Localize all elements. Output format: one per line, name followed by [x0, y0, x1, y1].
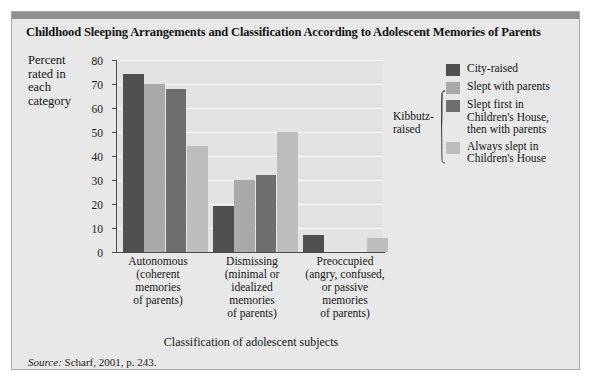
legend-item[interactable]: City-raised — [446, 62, 576, 76]
y-tick: 80 — [106, 60, 117, 61]
legend-swatch-icon — [446, 142, 460, 154]
x-category-label-line: of parents) — [284, 307, 406, 320]
x-category-label: Preoccupied(angry, confused,or passiveme… — [284, 255, 406, 320]
y-tick-mark — [112, 132, 117, 133]
y-tick-label: 50 — [92, 127, 104, 139]
x-category-label-line: (angry, confused, — [284, 268, 406, 281]
y-tick: 20 — [106, 204, 117, 205]
legend-label-line: then with parents — [467, 123, 576, 136]
x-axis-label: Classification of adolescent subjects — [106, 335, 396, 350]
y-tick-mark — [112, 228, 117, 229]
y-axis-label-line: category — [28, 95, 100, 109]
x-category-label-line: or passive — [284, 281, 406, 294]
legend-item[interactable]: Slept first inChildren's House,then with… — [446, 98, 576, 136]
gridline — [117, 60, 383, 61]
bar — [303, 235, 324, 252]
legend-label-line: City-raised — [467, 62, 576, 75]
y-tick-mark — [112, 156, 117, 157]
y-tick-mark — [112, 108, 117, 109]
y-tick-label: 70 — [92, 79, 104, 91]
y-tick-label: 60 — [92, 103, 104, 115]
y-tick-mark — [112, 252, 117, 253]
y-tick-mark — [112, 84, 117, 85]
y-tick: 0 — [106, 252, 117, 253]
x-axis-line — [116, 252, 385, 253]
plot-region: 01020304050607080 — [106, 60, 383, 252]
y-tick-label: 30 — [92, 175, 104, 187]
legend: City-raisedSlept with parentsSlept first… — [446, 62, 576, 169]
top-rule-divider — [12, 12, 579, 19]
y-tick-mark — [112, 204, 117, 205]
legend-swatch-icon — [446, 82, 460, 94]
bar — [187, 146, 208, 252]
figure-panel: Childhood Sleeping Arrangements and Clas… — [11, 11, 580, 370]
y-axis-label-line: Percent — [28, 54, 100, 68]
y-tick-label: 10 — [92, 223, 104, 235]
figure-title: Childhood Sleeping Arrangements and Clas… — [26, 25, 541, 40]
legend-label: Slept with parents — [467, 80, 576, 93]
plot-area — [117, 60, 383, 252]
legend-label-line: Children's House — [467, 152, 576, 165]
kibbutz-bracket-label-line: Kibbutz- — [393, 110, 441, 123]
legend-item[interactable]: Always slept inChildren's House — [446, 140, 576, 165]
bar — [166, 89, 187, 252]
bar — [256, 175, 277, 252]
source-text: Scharf, 2001, p. 243. — [65, 356, 157, 368]
y-tick: 10 — [106, 228, 117, 229]
legend-item[interactable]: Slept with parents — [446, 80, 576, 94]
bar — [367, 238, 388, 252]
bar — [277, 132, 298, 252]
bar — [144, 84, 165, 252]
y-tick: 70 — [106, 84, 117, 85]
x-category-label-line: Preoccupied — [284, 255, 406, 268]
curly-brace-icon — [437, 90, 446, 164]
y-tick: 30 — [106, 180, 117, 181]
y-tick: 40 — [106, 156, 117, 157]
bar — [213, 206, 234, 252]
legend-label-line: Slept first in — [467, 98, 576, 111]
legend-label-line: Always slept in — [467, 140, 576, 153]
legend-label-line: Children's House, — [467, 111, 576, 124]
legend-label-line: Slept with parents — [467, 80, 576, 93]
kibbutz-bracket-label: Kibbutz-raised — [393, 110, 441, 136]
y-tick: 60 — [106, 108, 117, 109]
bar — [234, 180, 255, 252]
y-tick-label: 40 — [92, 151, 104, 163]
legend-swatch-icon — [446, 64, 460, 76]
source-note: Source: Scharf, 2001, p. 243. — [28, 356, 157, 368]
y-tick-label: 20 — [92, 199, 104, 211]
y-axis-label-line: each — [28, 81, 100, 95]
y-tick: 50 — [106, 132, 117, 133]
x-category-label-line: memories — [284, 294, 406, 307]
legend-label: City-raised — [467, 62, 576, 75]
legend-label: Slept first inChildren's House,then with… — [467, 98, 576, 136]
legend-swatch-icon — [446, 100, 460, 112]
y-axis-label: Percentrated ineachcategory — [28, 54, 100, 108]
y-tick-mark — [112, 180, 117, 181]
y-tick-label: 80 — [92, 55, 104, 67]
bar — [123, 74, 144, 252]
y-axis-label-line: rated in — [28, 68, 100, 82]
source-prefix: Source: — [28, 356, 62, 368]
y-tick-mark — [112, 60, 117, 61]
kibbutz-bracket-label-line: raised — [393, 123, 441, 136]
legend-label: Always slept inChildren's House — [467, 140, 576, 165]
